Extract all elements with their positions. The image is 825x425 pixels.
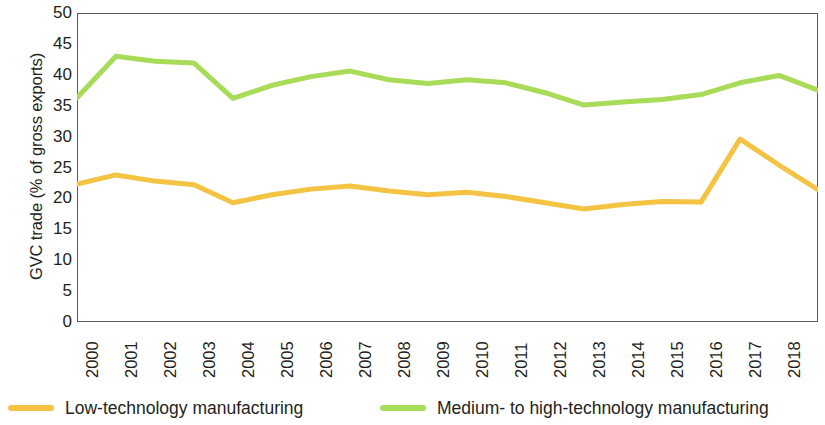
x-axis-tick-label: 2015 — [669, 341, 686, 378]
x-axis-tick-label: 2004 — [240, 341, 257, 378]
x-axis-tick-label: 2005 — [279, 341, 296, 378]
x-axis-tick-label: 2010 — [474, 341, 491, 378]
x-axis-tick-labels: 2000200120022003200420052006200720082009… — [0, 0, 825, 425]
line-chart: GVC trade (% of gross exports) 051015202… — [0, 0, 825, 425]
x-axis-tick-label: 2008 — [396, 341, 413, 378]
x-axis-tick-label: 2007 — [357, 341, 374, 378]
legend-item-low-technology-manufacturing[interactable]: Low-technology manufacturing — [8, 396, 303, 420]
x-axis-tick-label: 2014 — [630, 341, 647, 378]
x-axis-tick-label: 2012 — [552, 341, 569, 378]
x-axis-tick-label: 2017 — [747, 341, 764, 378]
legend-swatch-icon — [8, 405, 54, 411]
x-axis-tick-label: 2013 — [591, 341, 608, 378]
x-axis-tick-label: 2001 — [123, 341, 140, 378]
x-axis-tick-label: 2000 — [84, 341, 101, 378]
x-axis-tick-label: 2011 — [513, 343, 530, 378]
legend-label: Medium- to high-technology manufacturing — [437, 399, 769, 418]
legend-item-medium-to-high-technology-manufacturing[interactable]: Medium- to high-technology manufacturing — [380, 396, 769, 420]
x-axis-tick-label: 2002 — [162, 341, 179, 378]
x-axis-tick-label: 2003 — [201, 341, 218, 378]
x-axis-tick-label: 2018 — [786, 341, 803, 378]
x-axis-tick-label: 2016 — [708, 341, 725, 378]
x-axis-tick-label: 2006 — [318, 341, 335, 378]
x-axis-tick-label: 2009 — [435, 341, 452, 378]
legend-label: Low-technology manufacturing — [65, 399, 303, 418]
chart-legend: Low-technology manufacturing Medium- to … — [0, 396, 825, 425]
legend-swatch-icon — [380, 405, 426, 411]
